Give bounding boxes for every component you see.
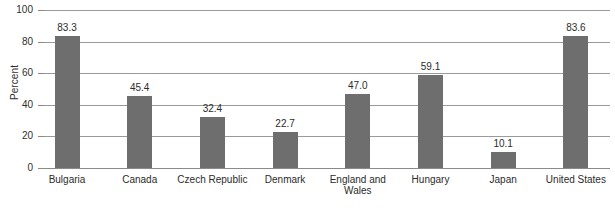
- x-axis-category-label: United States: [532, 174, 615, 185]
- plot-area: 83.3Bulgaria45.4Canada32.4Czech Republic…: [0, 0, 615, 208]
- bar: [418, 75, 443, 168]
- bar: [345, 94, 370, 168]
- bar-value-label: 10.1: [473, 139, 533, 149]
- bar-value-label: 59.1: [401, 62, 461, 72]
- bar-value-label: 83.6: [546, 23, 606, 33]
- bar: [127, 96, 152, 168]
- bar-value-label: 83.3: [37, 23, 97, 33]
- bar: [563, 36, 588, 168]
- bar-value-label: 45.4: [110, 83, 170, 93]
- bar: [491, 152, 516, 168]
- bar-value-label: 32.4: [182, 104, 242, 114]
- bar: [55, 36, 80, 168]
- bar-value-label: 22.7: [255, 119, 315, 129]
- bar-chart: Percent 020406080100 83.3Bulgaria45.4Can…: [0, 0, 615, 208]
- bar: [200, 117, 225, 168]
- bar-value-label: 47.0: [328, 81, 388, 91]
- bar: [273, 132, 298, 168]
